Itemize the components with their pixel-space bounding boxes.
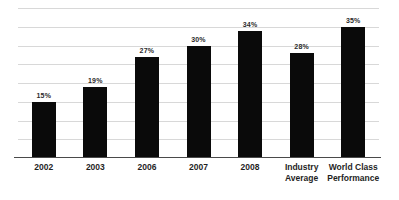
bar-value-label: 30%: [191, 36, 206, 43]
bar-value-label: 27%: [140, 47, 155, 54]
bar: [187, 46, 211, 159]
bar-chart: 15%19%27%30%34%28%35% 200220032006200720…: [0, 0, 399, 200]
bar: [32, 102, 56, 158]
bar: [83, 87, 107, 158]
bar: [238, 31, 262, 159]
category-axis: 20022003200620072008IndustryAverageWorld…: [18, 162, 379, 200]
category-label: World ClassPerformance: [314, 162, 392, 183]
bar-value-label: 15%: [36, 92, 51, 99]
bar: [341, 27, 365, 158]
bar-value-label: 35%: [346, 17, 361, 24]
bar: [135, 57, 159, 158]
bars-layer: 15%19%27%30%34%28%35%: [18, 8, 379, 158]
x-axis-baseline: [14, 157, 381, 158]
bar: [290, 53, 314, 158]
category-label-line: World Class: [314, 162, 392, 173]
bar-value-label: 19%: [88, 77, 103, 84]
bar-value-label: 28%: [294, 43, 309, 50]
category-label-line: Performance: [314, 173, 392, 184]
bar-value-label: 34%: [243, 21, 258, 28]
